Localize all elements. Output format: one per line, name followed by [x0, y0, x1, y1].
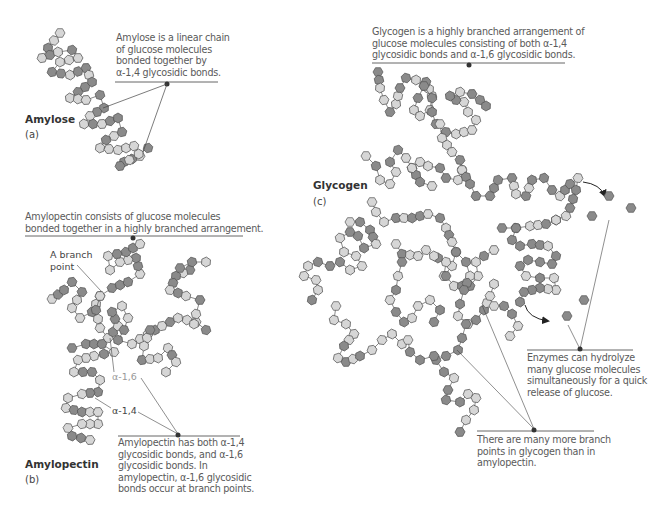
amylose-title: Amylose [25, 113, 75, 125]
a16-leader [141, 378, 178, 434]
caption-line: Amylopectin consists of glucose molecule… [25, 211, 263, 223]
amylopectin-title: Amylopectin [25, 458, 99, 470]
amylopectin-top-dot [131, 236, 136, 241]
caption-line: points in glycogen than in [477, 446, 611, 458]
a14-leader [138, 412, 178, 434]
enzyme-leader-2 [568, 325, 580, 349]
caption-line: Enzymes can hydrolyze [527, 352, 647, 364]
caption-line: α-1,4 glycosidic bonds. [116, 67, 230, 79]
caption-line: amylopectin, α-1,6 glycosidic [118, 472, 254, 484]
branch-caption: There are many more branch points in gly… [477, 434, 611, 469]
caption-line: glycosidic bonds, and α-1,6 [118, 449, 254, 461]
caption-line: Amylopectin has both α-1,4 [118, 437, 254, 449]
amylose-leader-2 [143, 84, 167, 152]
caption-line: There are many more branch [477, 434, 611, 446]
glycogen-title: Glycogen [313, 179, 368, 191]
amylose-panel-letter: (a) [25, 129, 39, 140]
amylose-leader-1 [103, 84, 167, 108]
diagram-artwork [0, 0, 660, 507]
a14-leader-left [95, 398, 111, 408]
caption-line: bonds occur at branch points. [118, 483, 254, 495]
caption-line: many glucose molecules [527, 364, 647, 376]
amylopectin-bottom-caption: Amylopectin has both α-1,4 glycosidic bo… [118, 437, 254, 495]
enzyme-leader-1 [580, 220, 609, 349]
caption-line: Glycogen is a highly branched arrangemen… [372, 26, 584, 38]
caption-line: bonded together by [116, 55, 230, 67]
amylopectin-top-caption: Amylopectin consists of glucose molecule… [25, 211, 263, 234]
caption-line: bonded together in a highly branched arr… [25, 223, 263, 235]
glycogen-top-caption: Glycogen is a highly branched arrangemen… [372, 26, 584, 61]
caption-line: simultaneously for a quick [527, 375, 647, 387]
alpha-14-label: α-1,4 [112, 405, 137, 417]
alpha-16-label: α-1,6 [112, 371, 137, 383]
amylose-caption: Amylose is a linear chain of glucose mol… [116, 32, 230, 78]
caption-line: of glucose molecules [116, 44, 230, 56]
caption-line: glycosidic bonds. In [118, 460, 254, 472]
branch-caption-dot [532, 428, 537, 433]
caption-line: release of glucose. [527, 387, 647, 399]
caption-line: amylopectin. [477, 457, 611, 469]
branch-point-label: A branch point [50, 249, 93, 273]
caption-line: glucose molecules consisting of both α-1… [372, 38, 584, 50]
glycogen-panel-letter: (c) [313, 196, 326, 207]
enzyme-caption: Enzymes can hydrolyze many glucose molec… [527, 352, 647, 398]
enzyme-caption-dot [578, 347, 583, 352]
caption-line: Amylose is a linear chain [116, 32, 230, 44]
glycogen-top-dot [467, 63, 472, 68]
caption-line: glycosidic bonds and α-1,6 glycosidic bo… [372, 49, 584, 61]
label-line: point [50, 261, 93, 273]
hydrolysis-arrow-1 [583, 182, 605, 196]
hydrolysis-arrow-2 [525, 305, 548, 321]
amylopectin-panel-letter: (b) [25, 474, 39, 485]
label-line: A branch [50, 249, 93, 261]
